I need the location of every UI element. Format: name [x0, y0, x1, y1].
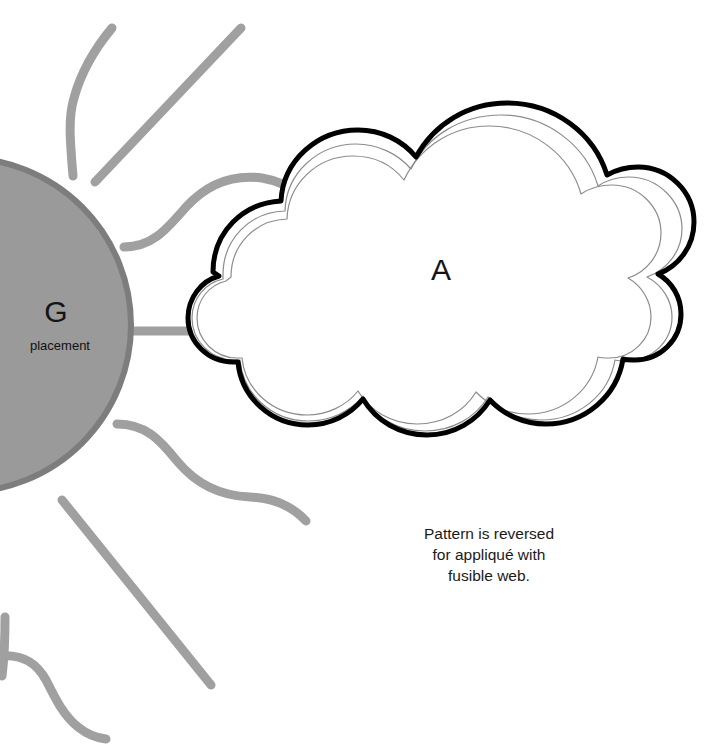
note-line-2: for appliqué with [433, 546, 546, 563]
sun-piece-letter: G [44, 295, 67, 328]
note-line-3: fusible web. [448, 567, 530, 584]
cloud-piece-letter: A [431, 253, 451, 286]
pattern-note: Pattern is reversed for appliqué with fu… [424, 525, 554, 584]
sun-ray-7 [0, 656, 106, 739]
sun-ray-2 [95, 28, 241, 182]
sun-placement-label: placement [30, 338, 90, 353]
sun-body-group: G placement [0, 158, 131, 492]
pattern-artwork: G placement A Pattern is reversed for ap… [0, 0, 704, 750]
pattern-sheet: G placement A Pattern is reversed for ap… [0, 0, 704, 750]
sun-ray-1 [70, 28, 112, 176]
sun-ray-5 [117, 424, 306, 521]
sun-ray-6 [62, 500, 211, 685]
cloud-piece-group: A [188, 103, 694, 435]
sun-ray-8 [2, 617, 5, 676]
note-line-1: Pattern is reversed [424, 525, 554, 542]
